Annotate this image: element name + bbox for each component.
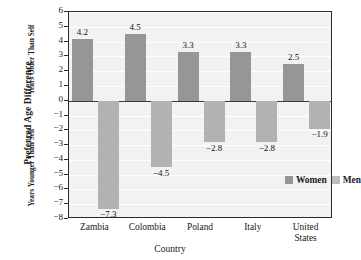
bar-value-label: 3.3 <box>170 41 207 50</box>
legend-item-men: Men <box>332 175 361 185</box>
bar-women-colombia <box>125 34 146 101</box>
bar-value-label: 2.5 <box>275 53 312 62</box>
legend-swatch-men-icon <box>332 176 340 184</box>
bar-value-label: 4.5 <box>117 23 154 32</box>
chart-legend: Women Men <box>285 175 361 185</box>
y-tick-label: 3 <box>42 50 63 59</box>
y-tick-mark <box>64 55 68 56</box>
bar-men-italy <box>256 101 277 142</box>
y-axis-lower-label: Years Younger Than Self <box>27 117 36 219</box>
bar-value-label: 4.2 <box>64 28 101 37</box>
y-tick-label: −7 <box>42 198 63 207</box>
bar-women-zambia <box>72 39 93 101</box>
bar-value-label: −7.3 <box>90 210 127 219</box>
bar-men-united-states <box>309 101 330 129</box>
chart-title <box>0 0 340 3</box>
y-tick-label: −5 <box>42 169 63 178</box>
bar-value-label: −2.8 <box>248 144 285 153</box>
bar-men-poland <box>204 101 225 142</box>
y-tick-mark <box>64 174 68 175</box>
y-tick-mark <box>64 85 68 86</box>
x-axis-label-poland: Poland <box>174 222 227 233</box>
y-tick-mark <box>64 188 68 189</box>
bar-value-label: −1.9 <box>301 130 338 139</box>
y-tick-label: 5 <box>42 21 63 30</box>
gridline <box>69 219 331 220</box>
legend-label-men: Men <box>343 175 361 185</box>
x-axis-label-italy: Italy <box>226 222 279 233</box>
y-tick-label: 0 <box>42 95 63 104</box>
bar-women-poland <box>178 52 199 101</box>
bar-men-zambia <box>98 101 119 209</box>
bar-value-label: −2.8 <box>196 144 233 153</box>
y-tick-mark <box>64 159 68 160</box>
y-tick-mark <box>64 115 68 116</box>
y-tick-mark <box>64 129 68 130</box>
y-axis-upper-label: Years Older Than Self <box>27 14 36 106</box>
x-axis-label-zambia: Zambia <box>68 222 121 233</box>
y-tick-mark <box>64 26 68 27</box>
y-tick-mark <box>64 11 68 12</box>
x-axis-label-united-states: UnitedStates <box>279 222 332 243</box>
y-tick-label: 4 <box>42 36 63 45</box>
y-tick-mark <box>64 100 68 101</box>
y-tick-label: −3 <box>42 139 63 148</box>
bars-layer: 4.2−7.34.5−4.53.3−2.83.3−2.82.5−1.9 <box>69 12 331 217</box>
y-tick-label: −1 <box>42 110 63 119</box>
y-tick-label: −4 <box>42 154 63 163</box>
y-tick-label: −8 <box>42 213 63 222</box>
legend-item-women: Women <box>285 175 327 185</box>
y-tick-label: 6 <box>42 6 63 15</box>
x-axis-label-colombia: Colombia <box>121 222 174 233</box>
y-tick-mark <box>64 41 68 42</box>
bar-women-united-states <box>283 64 304 101</box>
x-axis-title: Country <box>0 243 340 254</box>
legend-swatch-women-icon <box>285 176 293 184</box>
y-tick-mark <box>64 144 68 145</box>
y-tick-mark <box>64 203 68 204</box>
bar-women-italy <box>230 52 251 101</box>
y-tick-label: 2 <box>42 65 63 74</box>
bar-value-label: 3.3 <box>222 41 259 50</box>
y-tick-mark <box>64 70 68 71</box>
bar-value-label: −4.5 <box>143 169 180 178</box>
legend-label-women: Women <box>296 175 327 185</box>
bar-men-colombia <box>151 101 172 168</box>
y-tick-label: −2 <box>42 124 63 133</box>
y-tick-mark <box>64 218 68 219</box>
y-tick-label: 1 <box>42 80 63 89</box>
y-tick-label: −6 <box>42 183 63 192</box>
plot-area: 4.2−7.34.5−4.53.3−2.83.3−2.82.5−1.9 Wome… <box>68 11 332 218</box>
